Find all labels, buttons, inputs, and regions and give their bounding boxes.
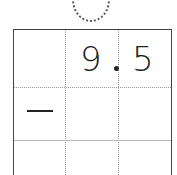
dotted-circle-carry <box>72 0 110 22</box>
column-divider <box>65 30 66 175</box>
decimal-point <box>114 66 119 71</box>
digit-tenths: 5 <box>132 42 154 76</box>
answer-line <box>14 140 171 141</box>
row-divider <box>14 87 171 88</box>
digit-ones: 9 <box>80 42 102 76</box>
subtraction-grid: 9 5 <box>13 29 172 175</box>
column-divider <box>118 30 119 175</box>
minus-sign <box>27 110 53 112</box>
